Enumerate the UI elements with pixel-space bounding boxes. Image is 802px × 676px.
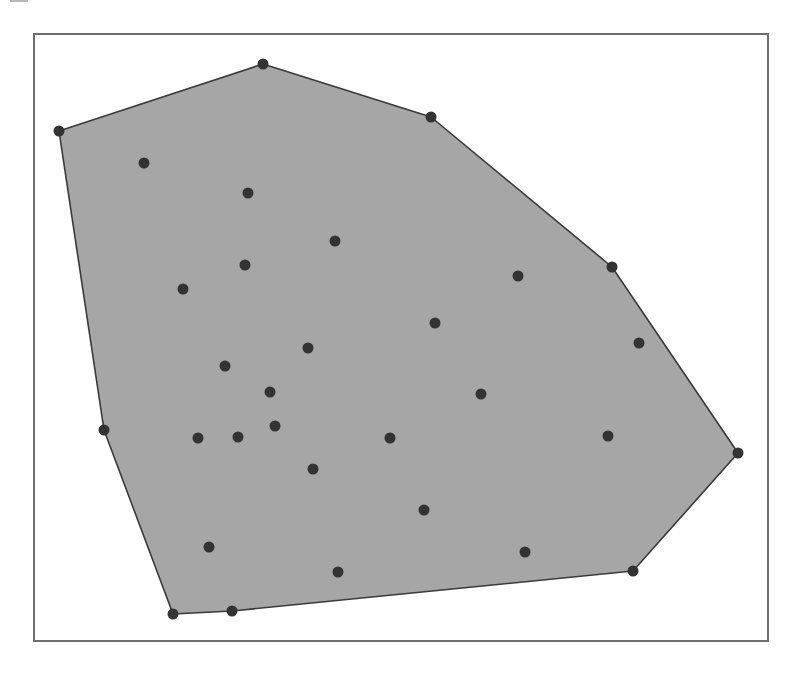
interior-point (220, 361, 231, 372)
convex-hull-diagram (0, 0, 802, 676)
hull-vertex-point (607, 262, 618, 273)
interior-point (270, 421, 281, 432)
interior-point (520, 547, 531, 558)
interior-point (204, 542, 215, 553)
interior-point (333, 567, 344, 578)
interior-point (476, 389, 487, 400)
interior-point (303, 343, 314, 354)
hull-vertex-point (227, 606, 238, 617)
interior-point (385, 433, 396, 444)
interior-point (265, 387, 276, 398)
interior-point (193, 433, 204, 444)
interior-point (308, 464, 319, 475)
hull-vertex-point (426, 112, 437, 123)
interior-point (178, 284, 189, 295)
interior-point (233, 432, 244, 443)
interior-point (603, 431, 614, 442)
hull-vertex-point (99, 425, 110, 436)
hull-vertex-point (168, 609, 179, 620)
hull-vertex-point (258, 59, 269, 70)
hull-vertex-point (54, 126, 65, 137)
interior-point (419, 505, 430, 516)
interior-point (240, 260, 251, 271)
hull-vertex-point (733, 448, 744, 459)
interior-point (330, 236, 341, 247)
interior-point (139, 158, 150, 169)
hull-vertex-point (628, 566, 639, 577)
interior-point (243, 188, 254, 199)
interior-point (513, 271, 524, 282)
interior-point (634, 338, 645, 349)
interior-point (430, 318, 441, 329)
